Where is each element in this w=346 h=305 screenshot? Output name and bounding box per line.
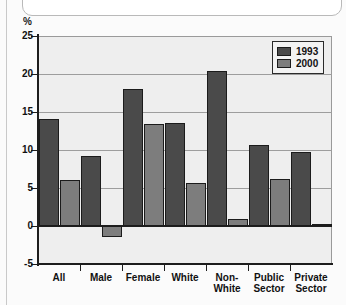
x-tick-separator xyxy=(164,265,165,271)
y-tick-label: 20 xyxy=(22,68,33,79)
x-tick-label-male: Male xyxy=(80,272,122,283)
y-tick-label: -5 xyxy=(24,258,33,269)
legend-label: 2000 xyxy=(296,58,318,69)
bar-2000-all xyxy=(60,180,80,226)
x-tick-label-line: Sector xyxy=(290,283,332,294)
bar-2000-private-sector xyxy=(312,224,332,226)
gridline xyxy=(38,150,332,151)
x-tick-label-line: Private xyxy=(290,272,332,283)
x-tick-label-line: Male xyxy=(80,272,122,283)
bar-1993-white xyxy=(165,123,185,226)
gridline xyxy=(38,74,332,75)
x-tick-label-female: Female xyxy=(122,272,164,283)
y-tick-label: 10 xyxy=(22,144,33,155)
bar-2000-non-white xyxy=(228,219,248,226)
x-tick-label-line: Non- xyxy=(206,272,248,283)
y-tick-label: 25 xyxy=(22,30,33,41)
legend-item-1993[interactable]: 1993 xyxy=(277,46,318,57)
gridline xyxy=(38,112,332,113)
y-tick-label: 0 xyxy=(27,220,33,231)
x-tick-separator xyxy=(80,265,81,271)
x-tick-label-line: White xyxy=(206,283,248,294)
bar-1993-female xyxy=(123,89,143,226)
x-tick-label-line: Sector xyxy=(248,283,290,294)
legend-label: 1993 xyxy=(296,46,318,57)
y-tick-label: 15 xyxy=(22,106,33,117)
x-tick-separator xyxy=(122,265,123,271)
x-tick-label-private-sector: PrivateSector xyxy=(290,272,332,294)
x-tick-label-line: Public xyxy=(248,272,290,283)
scanned-page-frame xyxy=(22,0,342,16)
bar-1993-male xyxy=(81,156,101,226)
bar-2000-male xyxy=(102,226,122,237)
legend-item-2000[interactable]: 2000 xyxy=(277,58,318,69)
x-tick-separator xyxy=(248,265,249,271)
bar-1993-non-white xyxy=(207,71,227,226)
bar-1993-private-sector xyxy=(291,152,311,226)
y-tick-label: 5 xyxy=(27,182,33,193)
bar-2000-female xyxy=(144,124,164,226)
legend-swatch-icon xyxy=(277,47,291,56)
bar-1993-all xyxy=(39,119,59,226)
x-tick-label-white: White xyxy=(164,272,206,283)
legend-swatch-icon xyxy=(277,59,291,68)
bar-1993-public-sector xyxy=(249,145,269,226)
x-tick-label-non-white: Non-White xyxy=(206,272,248,294)
x-tick-label-line: All xyxy=(38,272,80,283)
x-tick-label-line: Female xyxy=(122,272,164,283)
bar-2000-public-sector xyxy=(270,179,290,226)
x-axis-spine xyxy=(37,263,333,265)
x-tick-label-all: All xyxy=(38,272,80,283)
x-tick-separator xyxy=(206,265,207,271)
chart-legend: 19932000 xyxy=(272,41,324,74)
scanned-page-left-rule xyxy=(6,0,7,305)
bar-chart-figure: % -50510152025 AllMaleFemaleWhiteNon-Whi… xyxy=(0,0,346,305)
bar-2000-white xyxy=(186,183,206,226)
x-tick-separator xyxy=(290,265,291,271)
y-axis-unit-label: % xyxy=(23,16,32,27)
x-tick-label-public-sector: PublicSector xyxy=(248,272,290,294)
x-tick-label-line: White xyxy=(164,272,206,283)
